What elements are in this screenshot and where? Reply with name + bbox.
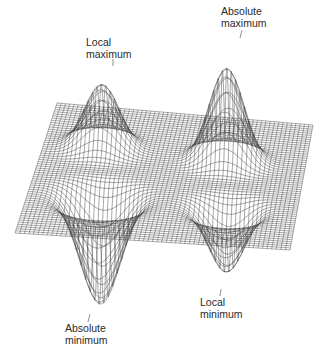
label-line: minimum: [65, 335, 108, 347]
leader-local-minimum: [220, 289, 221, 296]
label-line: maximum: [86, 49, 132, 61]
label-absolute-maximum: Absolute maximum: [221, 6, 267, 29]
wireframe-mesh: [15, 68, 313, 304]
leader-lines: [88, 30, 242, 322]
label-absolute-minimum: Absolute minimum: [65, 323, 108, 346]
leader-absolute-minimum: [88, 314, 90, 322]
label-line: Absolute: [221, 6, 267, 18]
surface-plot: [0, 0, 331, 349]
leader-absolute-maximum: [240, 30, 242, 38]
label-line: Local: [86, 37, 132, 49]
label-line: Absolute: [65, 323, 108, 335]
label-line: maximum: [221, 18, 267, 30]
label-line: minimum: [200, 309, 243, 321]
label-local-maximum: Local maximum: [86, 37, 132, 60]
label-line: Local: [200, 297, 243, 309]
label-local-minimum: Local minimum: [200, 297, 243, 320]
